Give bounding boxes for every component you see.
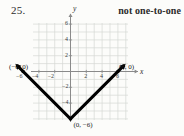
- y-tick-label: −2: [62, 83, 68, 89]
- y-axis-label: y: [73, 4, 76, 13]
- x-axis-arrowhead: [135, 70, 138, 74]
- y-tick-label: 4: [65, 36, 68, 42]
- graph-point: [69, 117, 72, 120]
- y-tick-label: −4: [62, 99, 68, 105]
- x-tick-label: 4: [100, 73, 103, 79]
- point-annotation: (0, −6): [74, 121, 93, 129]
- answer-key-page: 25. not one-to-one yx−6−4−2246642−2−4(−6…: [0, 0, 184, 136]
- x-tick-label: 2: [84, 73, 87, 79]
- point-annotation: (6, 0): [119, 63, 134, 71]
- y-tick-label: 2: [65, 52, 68, 58]
- x-tick-label: −6: [16, 73, 22, 79]
- x-tick-label: −4: [32, 73, 38, 79]
- point-annotation: (−6, 0): [9, 63, 28, 71]
- x-tick-label: −2: [48, 73, 54, 79]
- x-tick-label: 6: [116, 73, 119, 79]
- x-axis-label: x: [140, 67, 143, 76]
- y-axis-arrowhead: [69, 14, 73, 17]
- y-tick-label: 6: [65, 20, 68, 26]
